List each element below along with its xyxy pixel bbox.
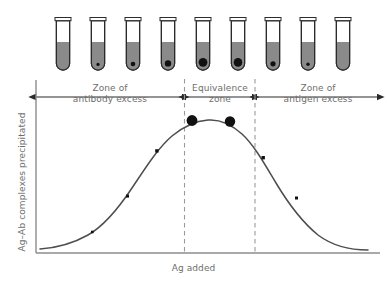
precipitate-dot xyxy=(306,63,309,66)
precipitate-dot xyxy=(165,60,171,66)
test-tube-3 xyxy=(125,18,141,71)
precipitate-dot xyxy=(270,61,275,66)
test-tube-1 xyxy=(55,18,71,71)
data-marker xyxy=(295,197,298,200)
precipitate-dot xyxy=(199,58,208,67)
data-marker xyxy=(91,231,94,234)
test-tube-2 xyxy=(90,18,106,71)
data-marker-large xyxy=(225,116,235,126)
test-tube-5 xyxy=(195,18,211,71)
test-tube-4 xyxy=(160,18,176,71)
test-tube-row xyxy=(55,18,351,71)
zone-label-antibody-excess: Zone of antibody excess xyxy=(64,83,156,104)
zone-label-equivalence: Equivalence zone xyxy=(186,83,254,104)
precipitate-dot xyxy=(234,58,243,67)
test-tube-8 xyxy=(300,18,316,71)
test-tube-9 xyxy=(335,18,351,71)
curve-data-markers xyxy=(91,115,298,233)
precipitate-dot xyxy=(131,62,136,67)
data-marker xyxy=(155,149,158,152)
test-tube-7 xyxy=(265,18,281,71)
figure-canvas xyxy=(0,0,387,283)
zone-label-antigen-excess: Zone of antigen excess xyxy=(272,83,364,104)
data-marker xyxy=(262,156,265,159)
y-axis-label: Ag–Ab complexes precipitated xyxy=(17,102,27,262)
precipitin-curve xyxy=(40,120,368,250)
data-marker-large xyxy=(187,115,198,126)
data-marker xyxy=(126,195,129,198)
precipitin-curve-figure: Zone of antibody excess Equivalence zone… xyxy=(0,0,387,283)
x-axis-label: Ag added xyxy=(0,263,387,273)
test-tube-6 xyxy=(230,18,246,71)
precipitate-dot xyxy=(96,63,99,66)
